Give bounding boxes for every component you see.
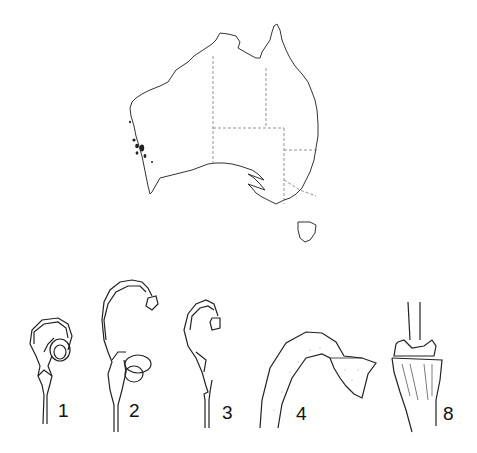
state-borders — [213, 56, 318, 204]
figure-8-label: 8 — [443, 404, 454, 423]
figure-2-label: 2 — [129, 401, 140, 420]
figure-8-drawing — [392, 302, 442, 432]
figure-4-drawing — [260, 332, 376, 428]
figure-1-label: 1 — [58, 401, 69, 420]
figure-4-stipple — [273, 347, 358, 410]
botanical-plate: 1 2 3 4 8 — [0, 0, 477, 453]
figure-4-label: 4 — [296, 404, 307, 423]
figure-3-label: 3 — [222, 403, 233, 422]
australia-distribution-map — [0, 0, 477, 453]
australia-coastline — [130, 24, 318, 204]
distribution-markers — [129, 121, 153, 163]
tasmania-outline — [298, 222, 316, 242]
figure-3-drawing — [184, 300, 220, 428]
